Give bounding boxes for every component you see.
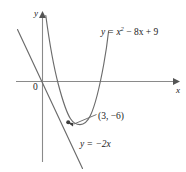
x-axis-label: x (176, 86, 180, 95)
y-axis (39, 11, 46, 162)
graph-figure: y x 0 y = x2 − 8x + 9 y = −2x (3, −6) (0, 0, 186, 172)
parabola-equation-label: y = x2 − 8x + 9 (101, 28, 158, 38)
x-axis-arrowhead (173, 78, 180, 85)
y-axis-arrowhead (39, 11, 46, 18)
y-axis-label: y (34, 9, 38, 18)
line-curve (18, 30, 83, 169)
callout-arrowhead (68, 123, 74, 127)
tangent-point-label: (3, −6) (98, 112, 124, 122)
parabola-equation-suffix: − 8x + 9 (124, 27, 158, 37)
origin-label: 0 (33, 83, 38, 93)
parabola-curve (46, 16, 109, 125)
parabola-equation-prefix: y = x (101, 27, 121, 37)
line-equation-label: y = −2x (80, 140, 111, 150)
